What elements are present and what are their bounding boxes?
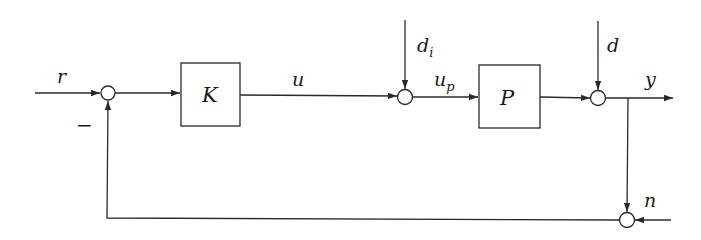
summing-junction-output-disturbance [591, 91, 606, 106]
controller-label: K [201, 83, 219, 107]
signal-label-d: d [607, 34, 619, 56]
block-diagram: r − K u di up P d y n [0, 0, 701, 240]
plant-label: P [499, 86, 515, 110]
summing-junction-noise [620, 213, 635, 228]
signal-label-up: up [434, 68, 455, 94]
signal-label-n: n [644, 189, 656, 211]
plant-output-arrow [540, 97, 590, 98]
control-signal-arrow [240, 95, 397, 96]
summing-junction-input-disturbance [398, 90, 413, 105]
feedback-minus-sign: − [76, 113, 93, 137]
signal-label-r: r [57, 65, 68, 87]
signal-label-y: y [644, 68, 656, 90]
measurement-branch-arrow [627, 98, 628, 212]
signal-label-u: u [292, 68, 304, 90]
summing-junction-error [101, 86, 115, 100]
signal-label-di: di [417, 34, 433, 60]
